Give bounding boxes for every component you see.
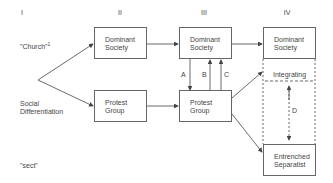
box-line1: Dominant xyxy=(190,36,231,44)
dominant-society-box-ii: Dominant Society xyxy=(94,27,147,59)
box-line2: Society xyxy=(274,44,315,52)
arrow-label-c: C xyxy=(224,71,229,79)
box-line2: Separatist xyxy=(274,161,315,169)
arrow-label-b: B xyxy=(202,71,207,79)
arrow-label-d: D xyxy=(292,107,297,115)
entrenched-separatist-box-iv: Entrenched Separatist xyxy=(263,144,316,176)
dominant-society-box-iv: Dominant Society xyxy=(263,27,316,59)
integrating-label: Integrating xyxy=(273,71,306,79)
box-line2: Group xyxy=(105,107,146,115)
arrow-label-a: A xyxy=(181,71,186,79)
box-line1: Entrenched xyxy=(274,153,315,161)
box-line1: Protest xyxy=(105,99,146,107)
box-line2: Group xyxy=(190,107,231,115)
box-line2: Society xyxy=(190,44,231,52)
box-line2: Society xyxy=(105,44,146,52)
box-line1: Dominant xyxy=(105,36,146,44)
box-line1: Protest xyxy=(190,99,231,107)
protest-group-box-iii: Protest Group xyxy=(179,90,232,122)
protest-group-box-ii: Protest Group xyxy=(94,90,147,122)
box-line1: Dominant xyxy=(274,36,315,44)
dominant-society-box-iii: Dominant Society xyxy=(179,27,232,59)
